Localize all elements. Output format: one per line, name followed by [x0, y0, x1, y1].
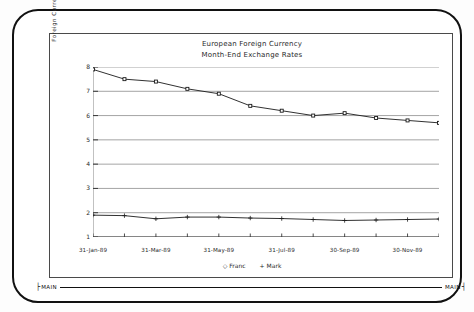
x-tick-label: 31-Mar-89: [141, 247, 170, 253]
chart-legend: ◇Franc+Mark: [50, 262, 454, 269]
y-axis-label: Foreign Currency Per US Dollar: [48, 0, 60, 77]
data-point-franc: [93, 68, 95, 71]
data-point-mark: [185, 215, 189, 219]
series-line-franc: [93, 69, 439, 122]
data-point-franc: [343, 112, 346, 115]
terminal-screen: European Foreign Currency Month-End Exch…: [0, 0, 474, 312]
chart-title: European Foreign Currency: [50, 39, 454, 50]
y-tick-label: 1: [76, 234, 90, 240]
data-point-mark: [311, 217, 315, 221]
y-tick-label: 8: [76, 64, 90, 70]
x-tick-label: 30-Sep-89: [330, 247, 360, 253]
status-right-cap: ┤: [462, 284, 466, 291]
data-point-franc: [186, 87, 189, 90]
x-tick-label: 31-Jan-89: [79, 247, 107, 253]
data-point-mark: [437, 217, 439, 221]
legend-item-mark[interactable]: +Mark: [260, 262, 282, 269]
legend-marker-icon: ◇: [223, 262, 228, 269]
x-tick-label: 31-May-89: [203, 247, 234, 253]
legend-marker-icon: +: [260, 262, 265, 269]
chart-subtitle: Month-End Exchange Rates: [50, 50, 454, 61]
data-point-franc: [154, 80, 157, 83]
data-point-franc: [280, 109, 283, 112]
plot-svg: [93, 67, 439, 237]
y-tick-label: 5: [76, 137, 90, 143]
data-point-mark: [93, 213, 95, 217]
data-point-mark: [405, 217, 409, 221]
x-axis-ticks: 31-Jan-8931-Mar-8931-May-8931-Jul-8930-S…: [93, 243, 439, 257]
status-divider: [60, 287, 442, 288]
data-point-franc: [375, 117, 378, 120]
legend-label: Franc: [229, 262, 245, 269]
data-point-franc: [312, 114, 315, 117]
crt-bezel: European Foreign Currency Month-End Exch…: [12, 9, 462, 303]
legend-label: Mark: [267, 262, 282, 269]
plot-area: [93, 67, 439, 237]
data-point-mark: [122, 213, 126, 217]
status-right-label[interactable]: MAIN: [444, 284, 462, 290]
data-point-mark: [217, 215, 221, 219]
y-tick-label: 6: [76, 113, 90, 119]
data-point-mark: [374, 218, 378, 222]
y-tick-label: 4: [76, 161, 90, 167]
data-point-franc: [406, 119, 409, 122]
data-point-mark: [342, 218, 346, 222]
y-axis-ticks: 12345678: [74, 67, 90, 237]
y-tick-label: 7: [76, 88, 90, 94]
chart-frame: European Foreign Currency Month-End Exch…: [49, 33, 453, 278]
legend-item-franc[interactable]: ◇Franc: [223, 262, 246, 269]
x-tick-label: 31-Jul-89: [269, 247, 295, 253]
y-tick-label: 2: [76, 210, 90, 216]
y-tick-label: 3: [76, 185, 90, 191]
chart-title-block: European Foreign Currency Month-End Exch…: [50, 39, 454, 61]
status-left-label[interactable]: MAIN: [40, 284, 58, 290]
data-point-mark: [154, 217, 158, 221]
status-bar: ├ MAIN MAIN ┤: [36, 281, 466, 293]
data-point-mark: [280, 216, 284, 220]
data-point-mark: [248, 216, 252, 220]
x-tick-label: 30-Nov-89: [393, 247, 423, 253]
data-point-franc: [123, 78, 126, 81]
data-point-franc: [249, 104, 252, 107]
series-line-mark: [93, 215, 439, 220]
data-point-franc: [217, 92, 220, 95]
data-point-franc: [438, 121, 440, 124]
